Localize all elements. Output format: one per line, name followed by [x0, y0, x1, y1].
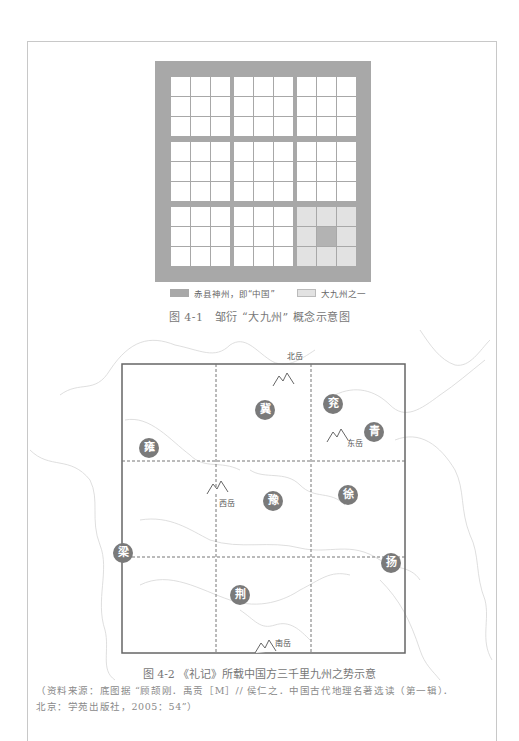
province-qing-marker: 青	[364, 422, 384, 442]
province-liang-marker: 梁	[113, 543, 133, 563]
figure2-caption: 图 4-2 《礼记》所载中国方三千里九州之势示意	[0, 665, 519, 681]
province-ji-marker: 冀	[255, 400, 275, 420]
province-yong-marker: 雍	[139, 438, 159, 458]
mountain-label-west: 西岳	[219, 497, 235, 508]
mountain-icons	[207, 373, 348, 653]
province-yan-marker: 兖	[323, 394, 343, 414]
province-jing-marker: 荆	[230, 585, 250, 605]
province-yu-marker: 豫	[263, 491, 283, 511]
base-map-outlines	[30, 330, 492, 680]
province-yang-marker: 扬	[381, 553, 401, 573]
mountain-label-south: 南岳	[275, 637, 291, 648]
mountain-label-east: 东岳	[347, 437, 363, 448]
province-xu-marker: 徐	[338, 485, 358, 505]
mountain-label-north: 北岳	[287, 350, 303, 361]
figure2-source-note: （资料来源：底图据 “顾颉刚．禹贡［M］// 侯仁之．中国古代地理名著选读（第一…	[36, 683, 454, 715]
source-line-2: 北京：学苑出版社，2005：54”）	[36, 699, 454, 715]
source-line-1: （资料来源：底图据 “顾颉刚．禹贡［M］// 侯仁之．中国古代地理名著选读（第一…	[36, 683, 454, 699]
